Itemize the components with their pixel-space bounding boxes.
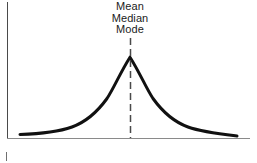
mode-label: Mode	[78, 24, 182, 36]
mean-label: Mean	[78, 1, 182, 13]
normal-distribution-figure: Mean Median Mode	[0, 0, 257, 163]
center-tendency-labels: Mean Median Mode	[78, 1, 182, 36]
bell-curve-path	[20, 57, 237, 136]
